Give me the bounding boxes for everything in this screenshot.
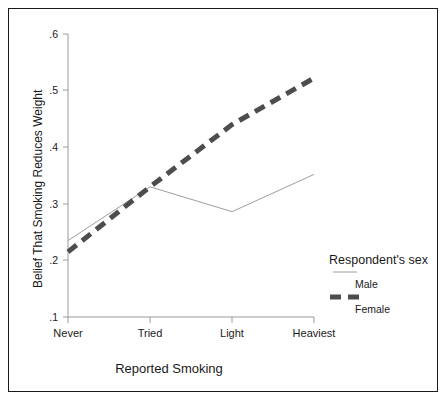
x-tick-label-light: Light (202, 328, 262, 339)
legend-title: Respondent's sex (329, 253, 428, 267)
x-axis-title: Reported Smoking (0, 362, 393, 375)
y-tick-label-6: .6 (36, 29, 58, 40)
x-tick-label-heaviest: Heaviest (282, 328, 346, 339)
x-tick-label-tried: Tried (120, 328, 180, 339)
legend-label-female: Female (355, 303, 390, 315)
legend-label-male: Male (355, 278, 378, 290)
x-tick-label-never: Never (38, 328, 98, 339)
y-axis-title: Belief That Smoking Reduces Weight (32, 90, 44, 288)
chart-figure: .6 .5 .4 .3 .2 .1 Never Tried Light Heav… (0, 0, 448, 402)
y-tick-label-1: .1 (36, 312, 58, 323)
